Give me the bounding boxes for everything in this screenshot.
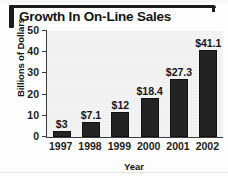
- title-bracket-left: [9, 5, 14, 28]
- bar-value-label: $18.4: [137, 85, 163, 97]
- bar-value-label: $12: [112, 99, 130, 111]
- title-bracket-top-right: [212, 5, 215, 12]
- y-axis-tick: 20: [42, 94, 47, 95]
- x-axis-tick-label: 2000: [134, 140, 163, 152]
- y-axis-tick-label: 20: [27, 88, 39, 100]
- title-bracket-top: [9, 5, 216, 8]
- bar: $41.1: [199, 50, 217, 137]
- plot-area: 01020304050$3$7.1$12$18.4$27.3$41.1: [46, 31, 223, 138]
- y-axis-tick: 40: [42, 51, 47, 52]
- y-axis-tick: 50: [42, 30, 47, 31]
- bar: $27.3: [170, 79, 188, 137]
- y-axis-tick: 10: [42, 115, 47, 116]
- y-axis-tick-label: 50: [27, 24, 39, 36]
- bar-value-label: $3: [56, 118, 68, 130]
- chart-title: Growth In On-Line Sales: [19, 9, 171, 24]
- y-axis-tick: 30: [42, 72, 47, 73]
- y-axis-tick-label: 30: [27, 66, 39, 78]
- bar: $18.4: [141, 98, 159, 137]
- x-axis-title: Year: [46, 161, 222, 172]
- x-axis-tick-label: 1997: [46, 140, 75, 152]
- bar: $12: [111, 112, 129, 137]
- bar: $7.1: [82, 122, 100, 137]
- top-edge-strip: [0, 0, 228, 3]
- y-axis-tick: 0: [42, 136, 47, 137]
- y-axis-title: Billions of Dollars: [15, 5, 26, 111]
- bar-value-label: $7.1: [81, 109, 101, 121]
- bar: $3: [53, 131, 71, 137]
- x-axis-tick-label: 2002: [193, 140, 222, 152]
- footer-divider: [0, 172, 228, 173]
- x-axis-tick-label: 1999: [105, 140, 134, 152]
- y-axis-tick-label: 40: [27, 45, 39, 57]
- chart-figure: Growth In On-Line Sales Billions of Doll…: [0, 0, 228, 176]
- bar-value-label: $27.3: [166, 66, 192, 78]
- bar-value-label: $41.1: [195, 37, 221, 49]
- x-axis-tick-label: 1998: [75, 140, 104, 152]
- y-axis-tick-label: 10: [27, 109, 39, 121]
- x-axis-tick-label: 2001: [163, 140, 192, 152]
- y-axis-tick-label: 0: [33, 130, 39, 142]
